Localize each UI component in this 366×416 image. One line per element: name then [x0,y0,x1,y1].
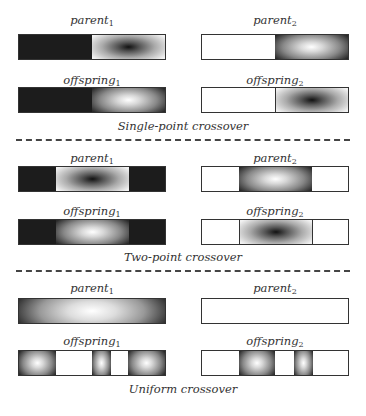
chromosome-bar [201,298,349,324]
label-text: parent [253,281,292,295]
label-text: offspring [63,73,115,87]
gene-segment-grad-dark-center [56,167,129,191]
label-text: offspring [63,334,115,348]
gene-segment-white [111,351,129,375]
gene-segment-grad-light-center [92,88,165,112]
gene-segment-white [202,35,275,59]
label-text: offspring [63,204,115,218]
label-subscript: 2 [292,157,297,166]
label-text: offspring [246,334,298,348]
gene-segment-white [202,88,275,112]
gene-segment-grad-light-center [275,35,348,59]
gene-segment-white [312,167,349,191]
label-subscript: 1 [116,340,121,349]
gene-segment-grad-dark-center [92,35,165,59]
gene-segment-white [313,351,348,375]
section-caption-two-point: Two-point crossover [0,250,366,264]
gene-segment-grad-light-center [56,220,129,244]
label-text: parent [70,13,109,27]
label-subscript: 1 [109,287,114,296]
label-text: parent [70,151,109,165]
chromosome-bar [18,166,166,192]
chromosome-bar [18,87,166,113]
gene-segment-white [202,220,239,244]
section-divider [16,270,350,272]
label-subscript: 2 [299,340,304,349]
parent2-label-uniform: parent2 [201,281,349,299]
chromosome-bar [201,350,349,376]
label-text: offspring [246,204,298,218]
gene-segment-grad-dark-center [275,88,348,112]
parent1-label-uniform: parent1 [18,281,166,299]
chromosome-bar [18,219,166,245]
gene-segment-dark [19,88,92,112]
gene-segment-white [202,299,348,323]
parent2-label-single: parent2 [201,13,349,31]
section-caption-uniform: Uniform crossover [0,382,366,396]
gene-segment-grad-light-center [239,351,276,375]
gene-segment-grad-light-wide [19,299,165,323]
label-subscript: 2 [292,19,297,28]
gene-segment-grad-dark-center [239,220,312,244]
gene-segment-white [56,351,93,375]
gene-segment-white [202,167,239,191]
gene-segment-dark [19,167,56,191]
label-subscript: 1 [116,210,121,219]
gene-segment-dark [129,220,166,244]
gene-segment-dark [19,220,56,244]
gene-segment-grad-light-center [19,351,56,375]
chromosome-bar [201,34,349,60]
chromosome-bar [18,34,166,60]
gene-segment-white [275,351,294,375]
gene-segment-dark [19,35,92,59]
label-text: parent [253,13,292,27]
chromosome-bar [18,350,166,376]
chromosome-bar [201,166,349,192]
gene-segment-grad-light-center [239,167,312,191]
chromosome-bar [201,219,349,245]
gene-segment-grad-light-center [128,351,165,375]
label-subscript: 1 [109,19,114,28]
label-text: parent [70,281,109,295]
section-caption-single-point: Single-point crossover [0,119,366,133]
label-text: parent [253,151,292,165]
section-divider [16,139,350,141]
label-subscript: 2 [292,287,297,296]
chromosome-bar [201,87,349,113]
gene-segment-white [202,351,239,375]
label-text: offspring [246,73,298,87]
parent1-label-single: parent1 [18,13,166,31]
gene-segment-dark [129,167,166,191]
label-subscript: 2 [299,210,304,219]
gene-segment-white [312,220,349,244]
chromosome-bar [18,298,166,324]
gene-segment-grad-light-center [92,351,111,375]
label-subscript: 1 [109,157,114,166]
gene-segment-grad-light-center [294,351,313,375]
